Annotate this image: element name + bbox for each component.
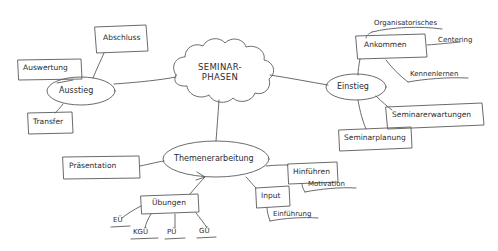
themenerarbeitung-ellipse [163, 141, 269, 177]
abschluss-box [95, 25, 148, 53]
seminarerwartungen-box [386, 103, 484, 129]
ankommen-box [356, 34, 427, 59]
edge-uebungen-eue [122, 206, 141, 218]
eue-underline [111, 226, 130, 227]
seminarplanung-box [339, 127, 412, 151]
edge-ausstieg-transfer [55, 104, 63, 113]
center-cloud-shape [174, 39, 274, 103]
edge-einstieg-ankommen [358, 59, 360, 75]
edge-themen-hinfuehren [266, 165, 288, 166]
edge-einstieg-seminarplanung [358, 100, 366, 129]
edge-ankommen-kennenlernen [386, 60, 408, 82]
edge-input-einfuehrung [267, 208, 270, 221]
kgue-underline [131, 238, 158, 239]
praesentation-box [63, 156, 140, 179]
edge-uebungen-gue [196, 213, 207, 228]
einstieg-ellipse [326, 74, 386, 100]
edge-ankommen-centering [427, 42, 460, 45]
edge-center-ausstieg [114, 77, 176, 84]
edge-ankommen-organisatorisches [366, 32, 372, 38]
edge-center-einstieg [270, 75, 328, 85]
mindmap-strokes [0, 0, 498, 251]
gue-underline [197, 237, 216, 238]
ausstieg-ellipse [47, 77, 115, 105]
einfuehrung-underline [270, 218, 318, 221]
auswertung-box [18, 59, 82, 80]
edge-themen-input [246, 177, 256, 188]
hinfuehren-box [288, 162, 338, 184]
edge-center-themen [216, 100, 219, 141]
edge-einstieg-seminarerwartungen [376, 96, 392, 110]
kennenlernen-underline [408, 78, 468, 82]
edge-hinfuehren-motivation [302, 184, 305, 192]
uebungen-box [141, 194, 199, 214]
pue-underline [165, 238, 185, 239]
motivation-underline [305, 188, 356, 192]
edge-ausstieg-abschluss [93, 53, 104, 78]
transfer-box [28, 112, 73, 134]
input-box [256, 186, 290, 208]
mindmap-canvas: SEMINAR-PHASEN SEMINAR- PHASEN Ausstieg … [0, 0, 498, 251]
edge-themen-praesentation [140, 161, 164, 166]
organisatorisches-underline [372, 27, 442, 32]
edge-uebungen-kgue [145, 214, 151, 228]
